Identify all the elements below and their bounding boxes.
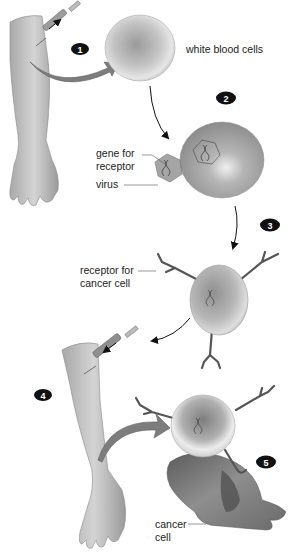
arrow-step3-to-4 bbox=[152, 318, 190, 341]
step-number-1: 1 bbox=[77, 45, 82, 55]
arrow-step2-to-3 bbox=[233, 206, 237, 248]
label-gene-for-receptor-2: receptor bbox=[96, 160, 135, 172]
step-number-5: 5 bbox=[263, 458, 268, 468]
label-receptor-1: receptor for bbox=[80, 264, 134, 276]
step-badge-2: 2 bbox=[216, 92, 236, 105]
step-badge-5: 5 bbox=[256, 456, 276, 469]
white-blood-cell bbox=[105, 15, 175, 81]
label-cancer-1: cancer bbox=[155, 518, 187, 530]
engineered-white-blood-cell bbox=[158, 252, 278, 368]
virus-icon bbox=[155, 154, 182, 182]
infected-white-blood-cell bbox=[180, 122, 264, 198]
label-cancer-2: cell bbox=[155, 531, 171, 543]
step-badge-4: 4 bbox=[34, 389, 52, 401]
label-receptor-2: cancer cell bbox=[80, 277, 130, 289]
curved-arrow-to-cancer bbox=[98, 414, 170, 462]
step-badge-3: 3 bbox=[260, 219, 280, 232]
gene-therapy-diagram: 1 white blood cells 2 gene for receptor … bbox=[0, 0, 300, 555]
arm-top bbox=[10, 16, 59, 206]
label-virus: virus bbox=[96, 178, 118, 190]
step-badge-1: 1 bbox=[71, 43, 89, 55]
label-gene-for-receptor-1: gene for bbox=[96, 147, 135, 159]
arm-bottom bbox=[62, 343, 126, 548]
step-number-3: 3 bbox=[267, 221, 272, 231]
arrow-step1-to-2 bbox=[150, 86, 168, 138]
step-number-4: 4 bbox=[40, 391, 45, 401]
step-number-2: 2 bbox=[223, 94, 228, 104]
label-white-blood-cells: white blood cells bbox=[185, 43, 263, 55]
